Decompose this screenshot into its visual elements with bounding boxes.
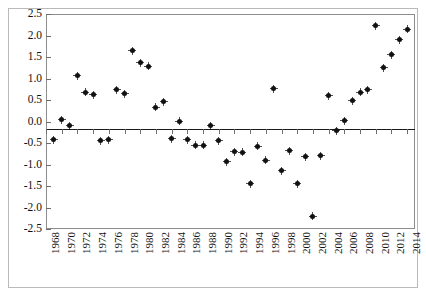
y-axis-tick-label: 1.5 [28,51,42,63]
x-axis-tick-mark [125,129,126,134]
x-axis-tick-mark [344,129,345,134]
y-axis-tick-label: 0.5 [28,94,42,106]
x-axis-tick-label: 1992 [238,232,249,254]
x-axis-tick-label: 2004 [333,232,344,254]
x-axis-tick-label: 1974 [97,232,108,254]
x-axis-tick-mark [266,129,267,134]
x-axis-tick-label: 1978 [129,232,140,254]
y-axis-tick-mark [46,186,51,187]
x-axis-tick-mark [77,129,78,134]
x-axis-tick-mark [156,129,157,134]
x-axis-tick-mark [46,129,47,134]
scatter-chart-figure: 2.52.01.51.00.50.0-0.5-1.0-1.5-2.0-2.5 1… [0,0,426,296]
y-axis-tick-mark [46,208,51,209]
data-point [240,150,245,155]
x-axis-tick-label: 1970 [66,232,77,254]
x-axis-tick-mark [62,129,63,134]
x-axis-tick-mark [391,129,392,134]
y-axis-tick-label: -1.0 [24,159,42,171]
x-axis-tick-label: 1976 [113,232,124,254]
data-point [232,149,237,154]
y-axis-tick-mark [46,122,51,123]
x-axis-tick-label: 1990 [223,232,234,254]
x-axis-tick-label: 1998 [286,232,297,254]
data-point [138,60,143,65]
y-axis-tick-label: 2.5 [28,8,42,20]
data-point [83,90,88,95]
y-axis-tick-label: 1.0 [28,73,42,85]
data-point [177,119,182,124]
x-axis-tick-mark [297,129,298,134]
x-axis-tick-label: 2012 [395,232,406,254]
x-axis-tick-label: 2014 [411,232,422,254]
x-axis-tick-label: 1988 [207,232,218,254]
data-point [201,143,206,148]
y-axis-tick-label: -0.5 [24,137,42,149]
data-point [303,154,308,159]
x-axis-tick-label: 1996 [270,232,281,254]
data-point [193,143,198,148]
y-axis-tick-mark [46,229,51,230]
x-axis-tick-label: 1982 [160,232,171,254]
x-axis-tick-label: 1980 [144,232,155,254]
x-axis-tick-mark [140,129,141,134]
y-axis-tick-label: -2.0 [24,202,42,214]
x-axis-tick-label: 2008 [364,232,375,254]
x-axis-tick-mark [313,129,314,134]
y-axis-tick-mark [46,14,51,15]
x-axis-tick-mark [109,129,110,134]
x-axis-tick-mark [219,129,220,134]
data-point [405,27,410,32]
x-axis-tick-mark [93,129,94,134]
x-axis-tick-label: 2006 [348,232,359,254]
y-axis-tick-mark [46,57,51,58]
x-axis-tick-label: 2000 [301,232,312,254]
x-axis-tick-mark [407,129,408,134]
x-axis-tick-label: 1994 [254,232,265,254]
plot-area-frame [46,14,415,229]
x-axis-labels: 1968197019721974197619781980198219841986… [0,232,426,294]
y-axis-tick-label: 0.0 [28,116,42,128]
x-axis-tick-mark [172,129,173,134]
x-axis-tick-mark [376,129,377,134]
y-axis-tick-mark [46,79,51,80]
x-axis-tick-mark [250,129,251,134]
y-axis-tick-label: -1.5 [24,180,42,192]
x-axis-tick-label: 1986 [191,232,202,254]
x-axis-tick-label: 2002 [317,232,328,254]
x-axis-tick-mark [203,129,204,134]
y-axis-tick-mark [46,143,51,144]
x-axis-tick-label: 1984 [176,232,187,254]
data-point [146,64,151,69]
x-axis-tick-label: 1968 [50,232,61,254]
data-point [358,90,363,95]
x-axis-tick-label: 2010 [380,232,391,254]
data-point [91,92,96,97]
y-axis-tick-mark [46,36,51,37]
x-axis-tick-mark [282,129,283,134]
x-axis-tick-mark [329,129,330,134]
x-axis-tick-mark [234,129,235,134]
x-axis-tick-label: 1972 [81,232,92,254]
y-axis-tick-mark [46,100,51,101]
data-point [342,118,347,123]
x-axis-tick-mark [187,129,188,134]
y-axis-tick-mark [46,165,51,166]
x-axis-tick-mark [360,129,361,134]
y-axis-tick-label: 2.0 [28,30,42,42]
